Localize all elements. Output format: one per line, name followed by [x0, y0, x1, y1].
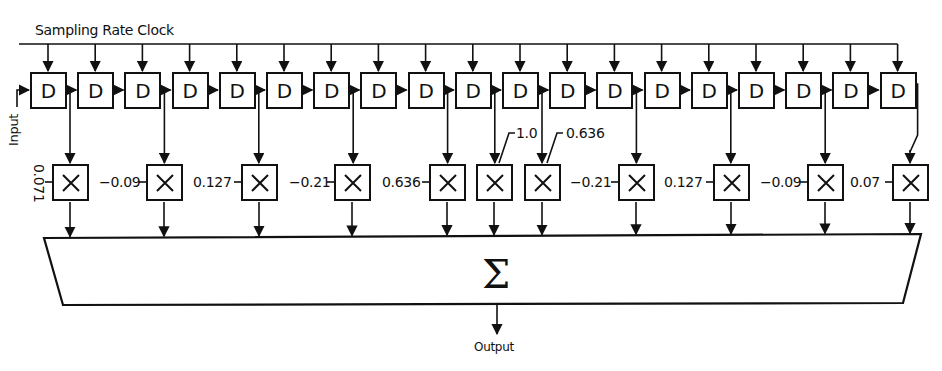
coefficient-label: 1.0: [516, 126, 537, 140]
multiplier-box: [713, 164, 750, 201]
delay-box: D: [549, 72, 586, 109]
input-label: Input: [7, 114, 21, 146]
delay-box: D: [596, 72, 633, 109]
delay-box: D: [644, 72, 681, 109]
coefficient-label: 0.636: [382, 175, 421, 189]
multiplier-box: [807, 164, 844, 201]
delay-box: D: [313, 72, 350, 109]
output-label: Output: [474, 340, 514, 354]
multiply-icon: [721, 172, 743, 194]
multiplier-box: [52, 164, 89, 201]
delay-box: D: [691, 72, 728, 109]
delay-box: D: [172, 72, 209, 109]
coefficient-label: 0.071: [32, 164, 46, 203]
delay-box: D: [77, 72, 114, 109]
delay-box: D: [455, 72, 492, 109]
multiplier-box: [476, 164, 513, 201]
delay-box: D: [124, 72, 161, 109]
delay-box: D: [785, 72, 822, 109]
coefficient-label: −0.09: [760, 175, 801, 189]
coefficient-label: 0.636: [566, 126, 605, 140]
delay-box: D: [219, 72, 256, 109]
multiply-icon: [60, 172, 82, 194]
coefficient-label: −0.21: [570, 175, 611, 189]
coefficient-label: 0.07: [850, 175, 880, 189]
delay-box: D: [738, 72, 775, 109]
delay-box: D: [30, 72, 67, 109]
multiply-icon: [626, 172, 648, 194]
clock-label: Sampling Rate Clock: [35, 23, 174, 37]
multiplier-box: [618, 164, 655, 201]
multiplier-box: [892, 164, 929, 201]
delay-box: D: [502, 72, 539, 109]
delay-box: D: [832, 72, 869, 109]
coefficient-label: 0.127: [193, 175, 232, 189]
multiplier-box: [429, 164, 466, 201]
multiply-icon: [437, 172, 459, 194]
delay-box: D: [360, 72, 397, 109]
delay-box: D: [408, 72, 445, 109]
sigma-symbol: Σ: [482, 254, 510, 294]
multiply-icon: [342, 172, 364, 194]
delay-box: D: [266, 72, 303, 109]
coefficient-label: −0.21: [289, 175, 330, 189]
multiplier-box: [241, 164, 278, 201]
delay-box: D: [880, 72, 917, 109]
multiply-icon: [249, 172, 271, 194]
coefficient-label: −0.09: [99, 175, 140, 189]
multiply-icon: [484, 172, 506, 194]
multiply-icon: [154, 172, 176, 194]
multiply-icon: [815, 172, 837, 194]
multiplier-box: [524, 164, 561, 201]
coefficient-label: 0.127: [664, 175, 703, 189]
fir-filter-diagram: Sampling Rate Clock Input DDDDDDDDDDDDDD…: [0, 0, 942, 371]
multiply-icon: [900, 172, 922, 194]
multiply-icon: [532, 172, 554, 194]
multiplier-box: [334, 164, 371, 201]
multiplier-box: [146, 164, 183, 201]
